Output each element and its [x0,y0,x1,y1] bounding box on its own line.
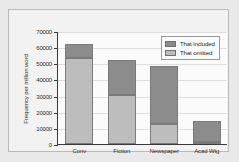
y-axis-tick [54,64,58,65]
y-axis-tick [54,113,58,114]
legend-item-label: That included [180,41,215,47]
y-axis-tick-label: 40000 [36,77,52,83]
bar-group: Fiction [108,31,136,144]
y-axis-tick-label: 60000 [36,45,52,51]
y-axis-tick-label: 30000 [36,94,52,100]
y-axis-tick [54,80,58,81]
legend-swatch-icon [165,41,176,47]
chart-legend: That includedThat omitted [161,36,220,60]
y-axis-tick-label: 70000 [36,29,52,35]
y-axis-tick-label: 20000 [36,110,52,116]
y-axis-label-text: Frequency per million word [23,54,29,123]
y-axis-tick [54,129,58,130]
bar-segment-that-included [65,44,93,59]
y-axis-tick-label: 0 [49,142,52,148]
bar-group: Conv [65,31,93,144]
x-axis-category-label: Conv [72,148,86,154]
y-axis-tick [54,97,58,98]
y-axis-tick [54,32,58,33]
y-axis-tick-label: 10000 [36,126,52,132]
legend-item: That omitted [165,48,215,57]
legend-item: That included [165,39,215,48]
bar-segment-that-included [150,66,178,124]
y-axis-tick [54,48,58,49]
y-axis-label: Frequency per million word [21,32,31,145]
legend-swatch-icon [165,50,176,56]
y-axis-tick [54,145,58,146]
bar-segment-that-omitted [108,95,136,144]
x-axis-category-label: Fiction [113,148,130,154]
chart-figure: Frequency per million word 0100002000030… [0,0,239,162]
x-axis-category-label: Acad Wtg [194,148,219,154]
x-axis-category-label: Newspaper [150,148,179,154]
bar-segment-that-included [193,121,221,142]
bar-segment-that-omitted [65,58,93,144]
chart-card: Frequency per million word 0100002000030… [8,9,229,152]
bar-segment-that-included [108,60,136,95]
bar-segment-that-omitted [150,124,178,144]
y-axis-tick-label: 50000 [36,61,52,67]
legend-item-label: That omitted [180,50,212,56]
